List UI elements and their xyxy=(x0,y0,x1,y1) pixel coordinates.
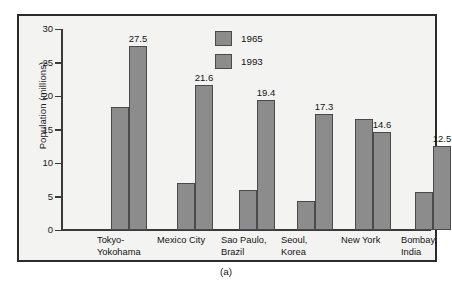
x-category-label: Sao Paulo,Brazil xyxy=(221,235,267,258)
bar-1965[interactable] xyxy=(111,107,129,230)
x-category-label-line: Brazil xyxy=(221,247,267,259)
x-category-label-line: Yokohama xyxy=(97,247,141,259)
x-category-label: Bombay,India xyxy=(401,235,437,258)
y-tick-label: 20 xyxy=(27,90,53,101)
x-category-label-line: Tokyo- xyxy=(97,235,141,247)
legend-label-1965: 1965 xyxy=(241,33,263,44)
x-category-label: Tokyo-Yokohama xyxy=(97,235,141,258)
bar-group: 12.5 xyxy=(415,29,451,230)
bar-value-label: 12.5 xyxy=(425,133,452,144)
chart-legend: 1965 1993 xyxy=(215,28,263,74)
y-tick-label: 0 xyxy=(27,224,53,235)
bar-value-label: 17.3 xyxy=(307,101,341,112)
y-tick-label: 25 xyxy=(27,57,53,68)
x-category-label-line: New York xyxy=(341,235,380,247)
legend-item-1993[interactable]: 1993 xyxy=(215,51,263,71)
figure-caption: (a) xyxy=(0,266,452,277)
bar-1993[interactable] xyxy=(315,114,333,230)
bar-1965[interactable] xyxy=(297,201,315,230)
x-category-label-line: Sao Paulo, xyxy=(221,235,267,247)
bar-value-label: 19.4 xyxy=(249,87,283,98)
y-tick-mark xyxy=(55,163,61,165)
y-tick-label: 15 xyxy=(27,124,53,135)
x-category-label: New York xyxy=(341,235,380,247)
y-tick-mark xyxy=(55,129,61,131)
bar-1965[interactable] xyxy=(415,192,433,230)
legend-swatch-1965 xyxy=(215,31,232,46)
x-category-label-line: India xyxy=(401,247,437,259)
bar-group: 14.6 xyxy=(355,29,391,230)
bar-1965[interactable] xyxy=(355,119,373,230)
bar-1993[interactable] xyxy=(195,85,213,230)
y-tick-mark xyxy=(55,230,61,232)
bar-group: 27.5 xyxy=(111,29,147,230)
y-tick-mark xyxy=(55,62,61,64)
bar-1965[interactable] xyxy=(239,190,257,230)
y-tick-label: 5 xyxy=(27,191,53,202)
legend-swatch-1993 xyxy=(215,54,232,69)
bar-group: 21.6 xyxy=(177,29,213,230)
bar-value-label: 14.6 xyxy=(365,119,399,130)
x-category-label-line: Korea xyxy=(281,247,307,259)
bar-group: 17.3 xyxy=(297,29,333,230)
y-tick-label: 30 xyxy=(27,23,53,34)
x-category-label-line: Bombay, xyxy=(401,235,437,247)
bar-1993[interactable] xyxy=(129,46,147,230)
y-tick-mark xyxy=(55,196,61,198)
bar-1993[interactable] xyxy=(257,100,275,230)
x-category-label-line: Mexico City xyxy=(157,235,205,247)
figure-container: Population (millions) 051015202530 27.52… xyxy=(0,0,452,287)
bar-1965[interactable] xyxy=(177,183,195,230)
bar-1993[interactable] xyxy=(373,132,391,230)
bar-1993[interactable] xyxy=(433,146,451,230)
y-tick-mark xyxy=(55,96,61,98)
legend-item-1965[interactable]: 1965 xyxy=(215,28,263,48)
chart-bordered-box: Population (millions) 051015202530 27.52… xyxy=(17,14,437,262)
x-category-label: Seoul,Korea xyxy=(281,235,307,258)
legend-label-1993: 1993 xyxy=(241,56,263,67)
x-category-label-line: Seoul, xyxy=(281,235,307,247)
bar-value-label: 27.5 xyxy=(121,33,155,44)
y-tick-mark xyxy=(55,29,61,31)
y-tick-label: 10 xyxy=(27,157,53,168)
x-category-label: Mexico City xyxy=(157,235,205,247)
